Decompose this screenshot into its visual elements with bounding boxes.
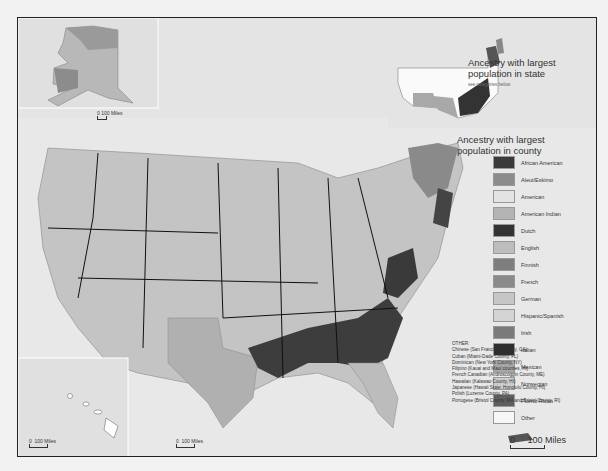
legend-item: Finnish <box>493 256 564 273</box>
legend-item: American <box>493 188 564 205</box>
legend-swatch <box>493 190 515 203</box>
legend-swatch <box>493 258 515 271</box>
legend-swatch <box>493 411 515 424</box>
state-map-subtitle: see categories below <box>468 82 510 87</box>
legend-swatch <box>493 241 515 254</box>
legend-swatch <box>493 275 515 288</box>
legend-item: French <box>493 273 564 290</box>
alaska-inset <box>18 18 158 108</box>
legend-swatch <box>493 326 515 339</box>
other-notes: OTHER: Chinese (San Francisco County, CA… <box>452 341 560 404</box>
legend-swatch <box>493 207 515 220</box>
other-note: Portugese (Bristol County, MA and Bristo… <box>452 398 560 404</box>
other-note: French Canadian (Androscoggin County, ME… <box>452 372 560 378</box>
legend-swatch <box>493 292 515 305</box>
legend-item: African American <box>493 154 564 171</box>
state-map-title: Ancestry with largest population in stat… <box>468 57 596 79</box>
legend-swatch <box>493 224 515 237</box>
legend-item: Other <box>493 409 564 426</box>
county-map-title: Ancestry with largest population in coun… <box>457 134 547 156</box>
legend-swatch <box>493 156 515 169</box>
legend-item: German <box>493 290 564 307</box>
scale-bar-hawaii: 0 100 Miles <box>29 438 56 448</box>
legend-item: Dutch <box>493 222 564 239</box>
scale-bar-alaska: 0 100 Miles <box>97 110 123 120</box>
legend-item: Irish <box>493 324 564 341</box>
scale-bar-conus: 0 100 Miles <box>176 438 203 448</box>
legend-swatch <box>493 309 515 322</box>
scale-bar-puerto-rico: 0 100 Miles <box>510 435 566 449</box>
legend-item: Hispanic/Spanish <box>493 307 564 324</box>
legend-item: American Indian <box>493 205 564 222</box>
legend-item: English <box>493 239 564 256</box>
legend-swatch <box>493 173 515 186</box>
legend-item: Aleut/Eskimo <box>493 171 564 188</box>
